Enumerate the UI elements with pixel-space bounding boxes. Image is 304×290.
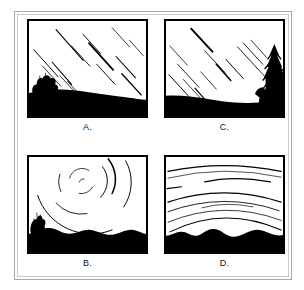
panel-a-image — [29, 21, 146, 116]
panel-c-frame — [164, 19, 285, 118]
figure-root: A. — [0, 0, 304, 290]
panel-c[interactable] — [164, 19, 285, 118]
panel-d-label: D. — [164, 258, 285, 268]
panel-c-label: C. — [164, 122, 285, 132]
panel-grid: A. — [0, 0, 304, 290]
panel-d-image — [166, 157, 283, 252]
panel-c-image — [166, 21, 283, 116]
panel-b-label: B. — [27, 258, 148, 268]
panel-a-frame — [27, 19, 148, 118]
panel-b-frame — [27, 155, 148, 254]
panel-a[interactable] — [27, 19, 148, 118]
panel-b-image — [29, 157, 146, 252]
panel-d[interactable] — [164, 155, 285, 254]
panel-d-frame — [164, 155, 285, 254]
panel-a-label: A. — [27, 122, 148, 132]
panel-b[interactable] — [27, 155, 148, 254]
